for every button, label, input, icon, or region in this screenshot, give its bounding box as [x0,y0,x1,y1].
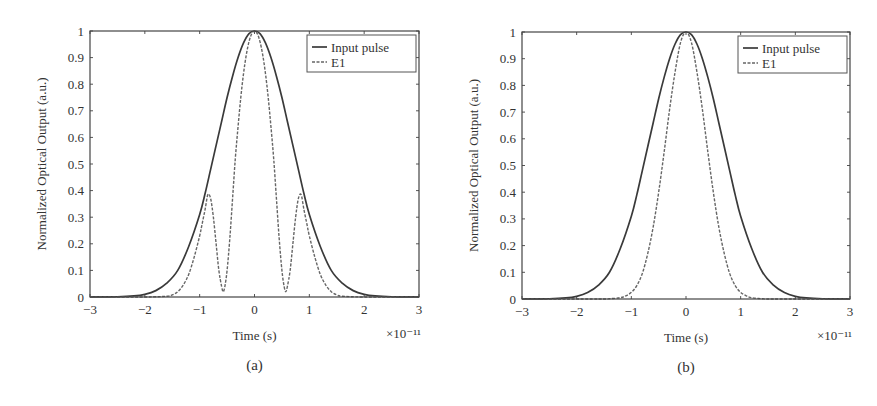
x-tick-label: −2 [570,304,584,319]
legend: Input pulseE1 [738,36,847,73]
x-tick-label: 1 [737,304,744,319]
y-tick-label: 0.5 [68,157,84,172]
y-tick-label: 0.1 [68,263,84,278]
y-tick-label: 0.9 [68,50,84,65]
x-tick-label: 3 [416,302,423,317]
legend: Input pulseE1 [307,35,416,72]
x-axis-label: Time (s) [664,330,708,345]
y-tick-label: 1 [510,25,517,40]
y-tick-label: 0.2 [68,236,84,251]
y-tick-label: 0.9 [500,51,516,66]
y-tick-label: 0.6 [500,131,517,146]
y-tick-label: 0.3 [500,211,516,226]
x-axis-multiplier: ×10⁻¹¹ [386,326,421,341]
x-tick-label: 1 [306,302,313,317]
y-tick-label: 0.6 [68,130,85,145]
y-tick-label: 0.4 [68,183,85,198]
y-tick-label: 0.7 [68,103,85,118]
x-axis-ticks: −3−2−10123 [515,32,853,319]
y-tick-label: 0.5 [500,158,516,173]
x-tick-label: −3 [83,302,97,317]
x-tick-label: 0 [683,304,690,319]
y-tick-label: 0.1 [500,265,516,280]
legend-label: E1 [762,56,776,71]
x-tick-label: −1 [624,304,638,319]
x-tick-label: 0 [251,302,258,317]
chart-panel-b: 00.10.20.30.40.50.60.70.80.91 −3−2−10123… [438,0,876,406]
y-tick-label: 1 [78,24,85,39]
y-tick-label: 0.7 [500,105,517,120]
y-tick-label: 0.8 [500,78,516,93]
y-tick-label: 0.8 [68,77,84,92]
legend-label: E1 [331,55,345,70]
x-tick-label: −3 [515,304,529,319]
y-axis-label: Normalized Optical Output (a.u.) [466,79,481,252]
x-axis-multiplier: ×10⁻¹¹ [817,328,852,343]
legend-label: Input pulse [762,41,820,56]
y-tick-label: 0.3 [68,210,84,225]
x-tick-label: 2 [361,302,368,317]
figure-caption: (b) [677,359,695,376]
chart-a-svg: 00.10.20.30.40.50.60.70.80.91 −3−2−10123… [0,0,438,406]
x-axis-label: Time (s) [233,328,277,343]
y-axis-label: Normalized Optical Output (a.u.) [34,78,49,251]
chart-panel-a: 00.10.20.30.40.50.60.70.80.91 −3−2−10123… [0,0,438,406]
x-tick-label: −1 [193,302,207,317]
legend-label: Input pulse [331,40,389,55]
y-tick-label: 0.2 [500,238,516,253]
figure-caption: (a) [246,357,263,374]
x-tick-label: 3 [847,304,854,319]
chart-b-svg: 00.10.20.30.40.50.60.70.80.91 −3−2−10123… [438,0,876,406]
y-tick-label: 0.4 [500,185,517,200]
x-tick-label: −2 [138,302,152,317]
x-tick-label: 2 [792,304,799,319]
x-axis-ticks: −3−2−10123 [83,31,422,317]
